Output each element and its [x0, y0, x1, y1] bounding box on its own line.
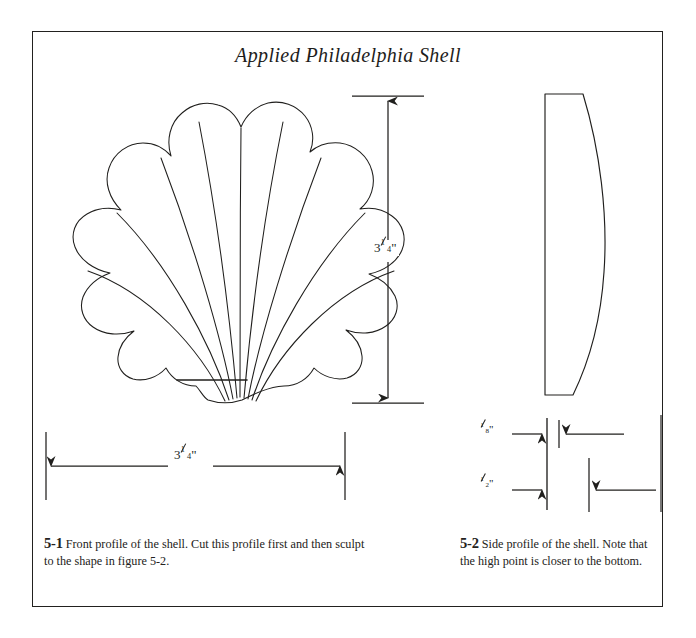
page-title: Applied Philadelphia Shell: [0, 44, 696, 67]
thickness-top-label: 18": [480, 423, 494, 435]
illustration-page: Applied Philadelphia Shell: [0, 0, 696, 638]
figure-caption-side-text: Side profile of the shell. Note that the…: [460, 537, 647, 568]
page-border-frame: [32, 31, 663, 607]
figure-caption-side: 5-2 Side profile of the shell. Note that…: [460, 535, 660, 569]
horizontal-dimension-label: 314": [171, 447, 199, 463]
figure-caption-front-text: Front profile of the shell. Cut this pro…: [44, 537, 364, 568]
figure-caption-front: 5-1 Front profile of the shell. Cut this…: [44, 535, 374, 569]
vertical-dimension-label: 314": [371, 240, 399, 256]
figure-label-front: 5-1: [44, 535, 63, 551]
thickness-bottom-label: 12": [480, 477, 494, 489]
figure-label-side: 5-2: [460, 535, 479, 551]
